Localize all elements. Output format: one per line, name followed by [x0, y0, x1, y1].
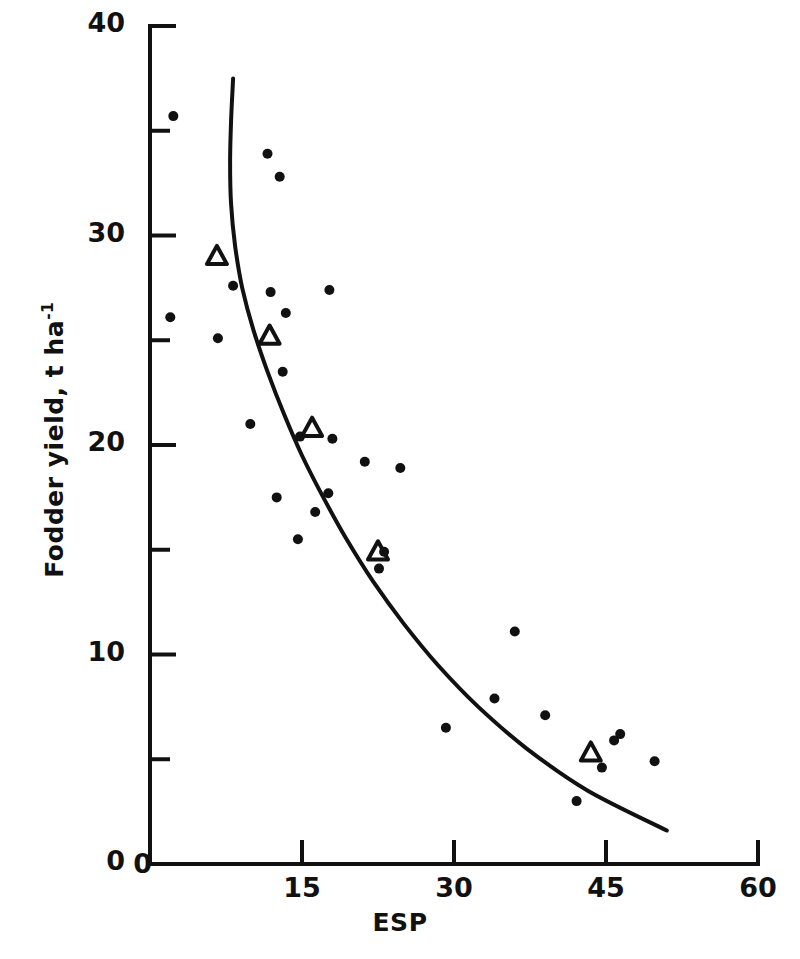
- observation-dot-marker: [441, 723, 451, 733]
- observation-dot-marker: [650, 756, 660, 766]
- axes: [150, 26, 758, 864]
- observation-dot-marker: [597, 763, 607, 773]
- data-points: [165, 111, 659, 806]
- y-axis-title: Fodder yield, t ha-1: [39, 230, 68, 650]
- observation-dot-marker: [165, 312, 175, 322]
- response-curve-path: [230, 78, 667, 830]
- x-tick-label: 0: [82, 848, 152, 879]
- y-axis-exponent: -1: [39, 302, 57, 320]
- observation-dot-marker: [510, 627, 520, 637]
- observation-dot-marker: [323, 488, 333, 498]
- mean-triangle-marker: [581, 742, 601, 760]
- observation-dot-marker: [327, 434, 337, 444]
- chart-figure: 010203040 015304560 Fodder yield, t ha-1…: [0, 0, 800, 959]
- mean-triangle-marker: [302, 418, 322, 436]
- observation-dot-marker: [278, 367, 288, 377]
- observation-dot-marker: [310, 507, 320, 517]
- observation-dot-marker: [293, 534, 303, 544]
- observation-dot-marker: [213, 333, 223, 343]
- observation-dot-marker: [374, 564, 384, 574]
- observation-dot-marker: [572, 796, 582, 806]
- x-tick-label: 45: [571, 872, 641, 903]
- observation-dot-marker: [275, 172, 285, 182]
- observation-dot-marker: [263, 149, 273, 159]
- observation-dot-marker: [228, 281, 238, 291]
- mean-triangle-marker: [207, 246, 227, 264]
- mean-markers: [207, 246, 601, 761]
- observation-dot-marker: [324, 285, 334, 295]
- x-tick-label: 30: [419, 872, 489, 903]
- observation-dot-marker: [272, 492, 282, 502]
- observation-dot-marker: [266, 287, 276, 297]
- tick-marks: [150, 26, 758, 864]
- observation-dot-marker: [168, 111, 178, 121]
- observation-dot-marker: [609, 735, 619, 745]
- observation-dot-marker: [245, 419, 255, 429]
- x-axis-title: ESP: [330, 908, 470, 937]
- observation-dot-marker: [281, 308, 291, 318]
- observation-dot-marker: [540, 710, 550, 720]
- fitted-curve: [230, 78, 667, 830]
- plot-canvas: [0, 0, 800, 959]
- mean-triangle-marker: [368, 541, 388, 559]
- observation-dot-marker: [360, 457, 370, 467]
- y-tick-label: 40: [55, 7, 125, 38]
- observation-dot-marker: [395, 463, 405, 473]
- x-tick-label: 60: [723, 872, 793, 903]
- observation-dot-marker: [490, 694, 500, 704]
- x-tick-label: 15: [267, 872, 337, 903]
- mean-triangle-marker: [260, 326, 280, 344]
